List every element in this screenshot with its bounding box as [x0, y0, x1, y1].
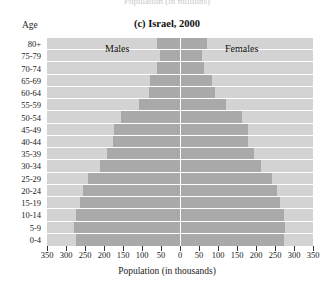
- x-tick-label: 350: [41, 251, 54, 260]
- female-bar: [180, 160, 261, 171]
- center-axis-line: [180, 38, 181, 246]
- x-tick-label: 300: [288, 251, 301, 260]
- male-bar: [157, 62, 180, 73]
- age-group-label: 0-4: [30, 236, 41, 245]
- female-bar: [180, 234, 284, 246]
- female-bar: [180, 124, 248, 135]
- females-series-label: Females: [225, 43, 258, 54]
- age-group-label: 50-54: [21, 113, 41, 122]
- male-bar: [121, 111, 180, 122]
- male-bar: [80, 197, 180, 208]
- y-axis-tick-labels: 80+75-7970-7465-6960-6455-5950-5445-4940…: [0, 38, 44, 246]
- male-bar: [76, 209, 181, 220]
- chart-title: (c) Israel, 2000: [0, 18, 334, 29]
- age-group-label: 55-59: [21, 101, 41, 110]
- age-group-label: 35-39: [21, 150, 41, 159]
- female-bar: [180, 62, 204, 73]
- female-bar: [180, 173, 272, 184]
- male-bar: [160, 50, 180, 61]
- age-group-label: 30-34: [21, 162, 41, 171]
- male-bar: [74, 222, 180, 233]
- male-bar: [157, 38, 180, 49]
- male-bar: [149, 87, 180, 98]
- x-tick-label: 300: [60, 251, 73, 260]
- x-tick-label: 50: [157, 251, 166, 260]
- age-group-label: 10-14: [21, 211, 41, 220]
- x-tick-label: 350: [307, 251, 320, 260]
- female-bar: [180, 136, 248, 147]
- x-tick-label: 200: [250, 251, 263, 260]
- age-group-label: 5-9: [30, 223, 41, 232]
- x-tick-label: 50: [195, 251, 204, 260]
- age-group-label: 60-64: [21, 89, 41, 98]
- x-axis-tick-labels: 3503002502001501005005010015020025030035…: [0, 251, 334, 263]
- age-group-label: 25-29: [21, 174, 41, 183]
- age-group-label: 40-44: [21, 138, 41, 147]
- age-group-label: 20-24: [21, 187, 41, 196]
- male-bar: [76, 234, 181, 246]
- age-group-label: 15-19: [21, 199, 41, 208]
- x-tick-label: 0: [178, 251, 182, 260]
- female-bar: [180, 87, 215, 98]
- x-axis-title: Population (in thousands): [0, 266, 334, 276]
- female-bar: [180, 222, 285, 233]
- male-bar: [83, 185, 180, 196]
- x-tick-label: 150: [117, 251, 130, 260]
- age-group-label: 45-49: [21, 126, 41, 135]
- female-bar: [180, 197, 280, 208]
- male-bar: [114, 124, 181, 135]
- male-bar: [88, 173, 180, 184]
- age-group-label: 80+: [28, 40, 41, 49]
- x-tick-label: 100: [212, 251, 225, 260]
- x-tick-label: 250: [269, 251, 282, 260]
- female-bar: [180, 209, 284, 220]
- male-bar: [113, 136, 180, 147]
- age-group-label: 70-74: [21, 64, 41, 73]
- male-bar: [100, 160, 180, 171]
- female-bar: [180, 50, 202, 61]
- cropped-caption-above: Population (in millions): [0, 0, 334, 6]
- x-tick-label: 250: [79, 251, 92, 260]
- female-bar: [180, 148, 254, 159]
- female-bar: [180, 38, 207, 49]
- female-bar: [180, 111, 242, 122]
- female-bar: [180, 75, 212, 86]
- male-bar: [107, 148, 180, 159]
- x-tick-label: 100: [136, 251, 149, 260]
- age-group-label: 65-69: [21, 77, 41, 86]
- male-bar: [150, 75, 180, 86]
- female-bar: [180, 185, 277, 196]
- female-bar: [180, 99, 226, 110]
- males-series-label: Males: [105, 43, 129, 54]
- age-group-label: 75-79: [21, 52, 41, 61]
- x-tick-label: 200: [98, 251, 111, 260]
- plot-area: Males Females: [47, 38, 313, 246]
- male-bar: [139, 99, 180, 110]
- population-pyramid-figure: Age (c) Israel, 2000 80+75-7970-7465-696…: [0, 10, 334, 292]
- x-tick-label: 150: [231, 251, 244, 260]
